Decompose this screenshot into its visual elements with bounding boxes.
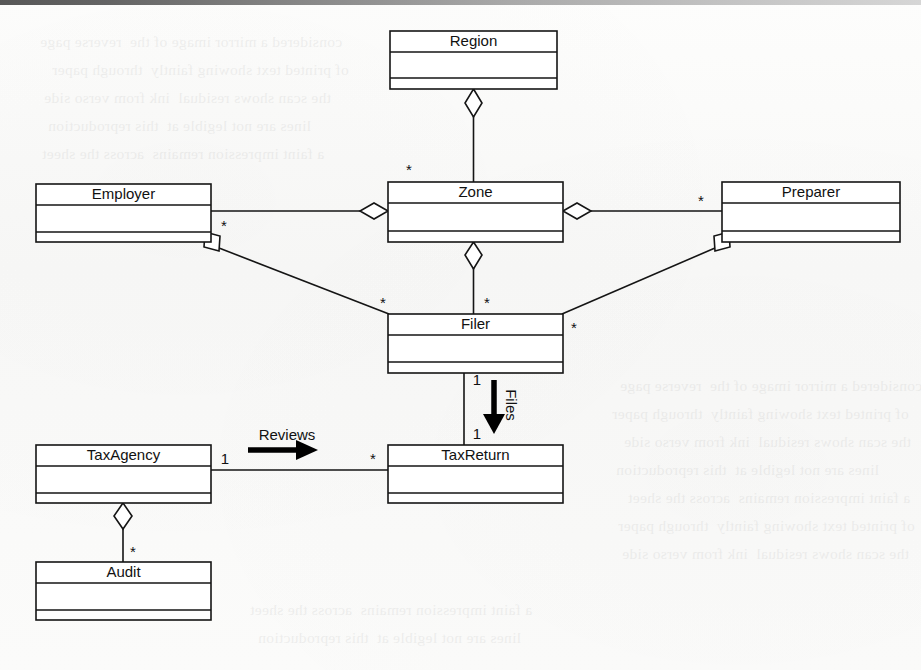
multiplicity-filer-topleft: *	[380, 294, 386, 311]
multiplicity-filer-right: *	[571, 319, 577, 336]
multiplicity-taxagency-right: 1	[221, 450, 229, 467]
class-name-taxagency: TaxAgency	[87, 446, 161, 463]
class-box-employer[interactable]: Employer	[36, 184, 211, 242]
line-preparer-filer	[562, 248, 715, 314]
multiplicity-filer-files-bottom: 1	[473, 425, 481, 442]
aggregation-diamond-region	[465, 89, 482, 117]
class-box-region[interactable]: Region	[390, 31, 557, 89]
class-name-audit: Audit	[106, 563, 141, 580]
reviews-direction-arrow	[248, 440, 318, 460]
class-name-taxreturn: TaxReturn	[441, 446, 509, 463]
aggregation-diamond-zone-right	[563, 203, 591, 219]
multiplicity-audit-top: *	[130, 543, 136, 560]
class-name-zone: Zone	[458, 183, 492, 200]
multiplicity-filer-topmid: *	[484, 294, 490, 311]
uml-class-diagram: Region Employer Zone Preparer	[0, 0, 921, 670]
class-box-zone[interactable]: Zone	[388, 182, 563, 242]
class-name-employer: Employer	[92, 185, 155, 202]
multiplicity-preparer-left: *	[698, 192, 704, 209]
files-direction-arrow	[483, 380, 505, 434]
class-box-taxagency[interactable]: TaxAgency	[36, 445, 211, 503]
aggregation-diamond-taxagency	[114, 503, 132, 529]
class-box-audit[interactable]: Audit	[36, 562, 211, 620]
class-name-filer: Filer	[461, 315, 490, 332]
aggregation-diamond-zone-left	[360, 203, 388, 219]
line-employer-filer	[219, 248, 389, 314]
class-box-taxreturn[interactable]: TaxReturn	[388, 445, 563, 503]
class-name-preparer: Preparer	[782, 183, 840, 200]
association-label-files: Files	[503, 389, 520, 421]
class-name-region: Region	[450, 32, 498, 49]
multiplicity-employer-corner: *	[221, 217, 227, 234]
class-box-filer[interactable]: Filer	[388, 314, 563, 373]
multiplicity-zone-top: *	[406, 161, 412, 178]
multiplicity-taxreturn-left: *	[370, 450, 376, 467]
scanned-page: considered a mirror image of the reverse…	[0, 0, 921, 670]
aggregation-diamond-zone-bottom	[465, 242, 482, 269]
class-box-preparer[interactable]: Preparer	[722, 182, 900, 242]
association-label-reviews: Reviews	[259, 426, 316, 443]
multiplicity-filer-files-top: 1	[473, 371, 481, 388]
